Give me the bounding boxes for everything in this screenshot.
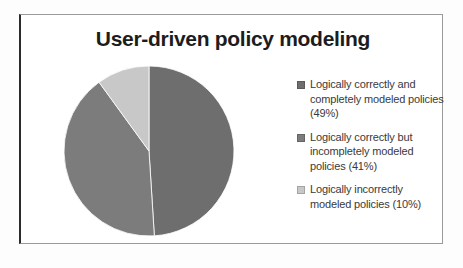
- legend-swatch-icon: [297, 134, 305, 142]
- pie-chart-plot-area: [63, 65, 235, 237]
- legend-swatch-icon: [297, 81, 305, 89]
- scanned-page-frame: User-driven policy modeling Logically co…: [19, 14, 443, 244]
- legend-item[interactable]: Logically incorrectly modeled policies (…: [297, 182, 445, 211]
- pie-slice[interactable]: [149, 66, 234, 236]
- legend-item-label: Logically correctly but incompletely mod…: [310, 130, 445, 174]
- pie-chart-svg: [63, 65, 235, 237]
- legend-swatch-icon: [297, 186, 305, 194]
- chart-legend: Logically correctly and completely model…: [297, 77, 445, 220]
- legend-item[interactable]: Logically correctly and completely model…: [297, 77, 445, 121]
- figure-canvas: User-driven policy modeling Logically co…: [0, 0, 463, 268]
- chart-title: User-driven policy modeling: [49, 27, 417, 51]
- legend-item-label: Logically incorrectly modeled policies (…: [310, 182, 445, 211]
- legend-item-label: Logically correctly and completely model…: [310, 77, 445, 121]
- pie-slice-group: [64, 66, 234, 236]
- legend-item[interactable]: Logically correctly but incompletely mod…: [297, 130, 445, 174]
